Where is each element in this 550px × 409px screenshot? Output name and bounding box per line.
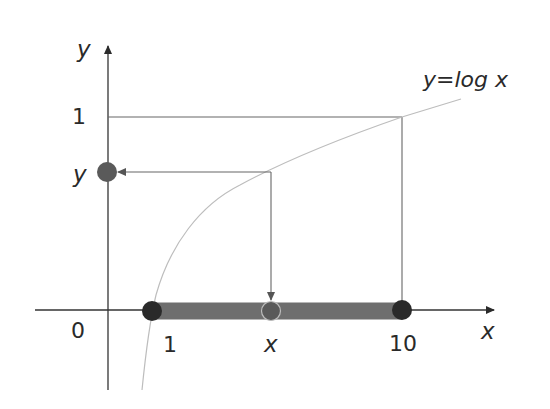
curve-label: y=log x <box>422 67 509 92</box>
dot-y <box>97 162 117 182</box>
x-axis-label: x <box>480 318 495 344</box>
log-diagram: y 1 y 0 1 x 10 x y=log x <box>0 0 550 409</box>
dot-x-mid <box>262 302 281 321</box>
dot-x10 <box>392 300 412 320</box>
origin-label: 0 <box>71 318 85 343</box>
y-tick-y-label: y <box>72 161 87 187</box>
dot-x1 <box>142 301 162 321</box>
y-tick-1-label: 1 <box>72 104 86 129</box>
x-tick-1-label: 1 <box>163 332 177 357</box>
x-tick-x-label: x <box>263 331 278 357</box>
y-axis-label: y <box>76 36 91 62</box>
x-tick-10-label: 10 <box>389 331 417 356</box>
